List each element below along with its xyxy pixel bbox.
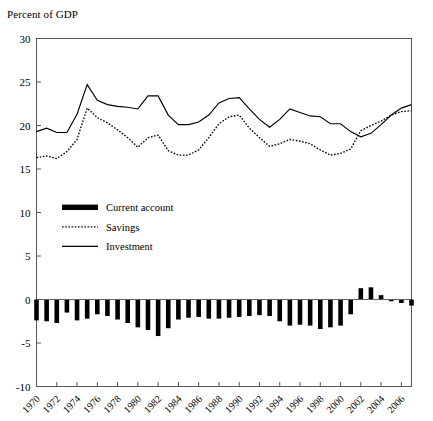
current-account-bar [288,300,293,326]
x-tick-label: 2002 [344,393,366,415]
current-account-bar [44,300,49,322]
x-tick-label: 1974 [61,393,83,415]
plot-frame [37,39,412,387]
current-account-bar [298,300,303,325]
current-account-bar [369,287,374,299]
x-tick-label: 1982 [142,393,164,415]
current-account-bar [237,300,242,317]
current-account-bar [217,300,222,319]
x-tick-label: 1972 [40,393,62,415]
current-account-bar [166,300,171,329]
x-tick-label: 1994 [263,393,285,415]
current-account-bar [54,300,59,323]
chart-legend: Current accountSavingsInvestment [62,202,173,252]
current-account-bar [308,300,313,326]
y-tick-label: 20 [20,120,32,132]
current-account-bar [115,300,120,320]
current-account-bar [125,300,130,323]
x-tick-label: 1992 [243,393,265,415]
current-account-bar [399,300,404,303]
current-account-bar [227,300,232,318]
y-tick-label: 15 [20,163,32,175]
y-tick-label: 0 [25,294,31,306]
current-account-bar [75,300,80,321]
current-account-bar [95,300,100,315]
current-account-bar [146,300,151,330]
x-tick-label: 1984 [162,393,184,415]
x-tick-label: 1996 [284,393,306,415]
y-tick-label: 30 [20,33,32,45]
x-tick-label: 2000 [324,393,346,415]
x-tick-label: 1970 [20,393,42,415]
current-account-bar [136,300,141,328]
chart-root: Percent of GDP -10-505101520253019701972… [0,0,433,421]
legend-swatch-current-account [62,205,98,210]
current-account-bar [348,300,353,315]
current-account-bar [105,300,110,317]
current-account-bar [156,300,161,337]
y-tick-label: -5 [21,337,31,349]
plot-area: -10-505101520253019701972197419761978198… [0,0,433,421]
x-tick-label: 1978 [101,393,123,415]
x-tick-label: 1988 [202,393,224,415]
current-account-bar [206,300,211,319]
current-account-bar [85,300,90,319]
current-account-bar [359,288,364,299]
current-account-bar [328,300,333,328]
current-account-bar [257,300,262,316]
chart-svg: -10-505101520253019701972197419761978198… [0,0,433,421]
current-account-bar [409,300,414,306]
current-account-bar [186,300,191,318]
current-account-bar [34,300,39,321]
current-account-bar [196,300,201,317]
x-tick-label: 1980 [121,393,143,415]
x-tick-label: 2004 [365,393,387,415]
y-tick-label: -10 [16,381,31,393]
y-tick-label: 25 [20,76,32,88]
current-account-bar [65,300,70,313]
current-account-bar [267,300,272,317]
current-account-bar [338,300,343,326]
current-account-bar [318,300,323,330]
current-account-bar [247,300,252,317]
y-tick-label: 5 [25,250,31,262]
x-tick-label: 1986 [182,393,204,415]
current-account-bar [379,295,384,299]
legend-label-current_account: Current account [106,202,173,213]
y-tick-label: 10 [20,207,32,219]
x-tick-label: 1976 [81,393,103,415]
current-account-bar [277,300,282,322]
x-tick-label: 1998 [304,393,326,415]
legend-label-savings: Savings [106,222,139,233]
x-tick-label: 1990 [223,393,245,415]
legend-label-investment: Investment [106,241,153,252]
x-tick-label: 2006 [385,393,407,415]
current-account-bars [34,287,414,336]
investment-line [37,85,412,137]
current-account-bar [176,300,181,320]
